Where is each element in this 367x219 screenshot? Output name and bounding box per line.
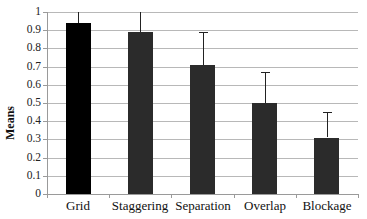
- y-tick-label: 0.2: [17, 151, 41, 163]
- bar-chart: Means 00.10.20.30.40.50.60.70.80.91GridS…: [0, 0, 367, 219]
- y-axis-label-text: Means: [3, 106, 18, 140]
- y-tick-label: 0.9: [17, 23, 41, 35]
- x-tick-label: Blockage: [292, 198, 362, 214]
- x-tick-label: Overlap: [230, 198, 300, 214]
- y-axis: [47, 12, 48, 195]
- y-tick-label: 0: [17, 187, 41, 199]
- error-bar: [265, 72, 266, 103]
- error-bar: [78, 12, 79, 23]
- error-bar-cap: [261, 72, 270, 73]
- y-tick-label: 0.4: [17, 114, 41, 126]
- gridline: [47, 30, 358, 31]
- error-bar: [327, 112, 328, 137]
- y-tick-label: 0.5: [17, 96, 41, 108]
- y-tick-label: 0.3: [17, 132, 41, 144]
- x-tick-label: Separation: [168, 198, 238, 214]
- error-bar-cap: [323, 112, 332, 113]
- error-bar: [140, 12, 141, 32]
- error-bar: [203, 32, 204, 65]
- y-axis-label: Means: [3, 103, 17, 143]
- gridline: [47, 12, 358, 13]
- x-tick-label: Grid: [43, 198, 113, 214]
- y-tick-label: 0.8: [17, 41, 41, 53]
- y-tick-label: 0.7: [17, 60, 41, 72]
- x-tick-label: Staggering: [105, 198, 175, 214]
- bar-staggering: [128, 32, 153, 194]
- bar-blockage: [314, 138, 339, 194]
- x-axis: [47, 194, 358, 195]
- y-tick-label: 0.6: [17, 78, 41, 90]
- bar-separation: [190, 65, 215, 194]
- bar-overlap: [252, 103, 277, 194]
- bar-grid: [66, 23, 91, 194]
- y-tick-label: 1: [17, 5, 41, 17]
- error-bar-cap: [199, 32, 208, 33]
- y-tick-label: 0.1: [17, 169, 41, 181]
